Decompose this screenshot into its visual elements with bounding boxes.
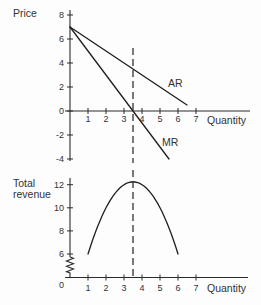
y-tick-label: 8 — [59, 10, 64, 20]
y-tick-label: 4 — [59, 58, 64, 68]
price-chart: 86420-2-41234567QuantityPriceARMR — [13, 7, 250, 164]
x-tick-label: 5 — [157, 114, 162, 124]
x-axis-label: Quantity — [207, 282, 247, 294]
x-tick-label: 7 — [193, 283, 198, 293]
x-tick-label: 2 — [103, 114, 108, 124]
origin-label: 0 — [59, 280, 64, 290]
x-tick-label: 6 — [175, 283, 180, 293]
x-tick-label: 3 — [121, 114, 126, 124]
axis-break-zigzag — [67, 257, 74, 278]
x-tick-label: 5 — [157, 283, 162, 293]
x-tick-label: 2 — [103, 283, 108, 293]
y-tick-label: 10 — [54, 203, 64, 213]
ar-curve — [70, 27, 187, 105]
series-label-mr: MR — [162, 136, 179, 148]
x-tick-label: 1 — [85, 114, 90, 124]
y-tick-label: 6 — [59, 249, 64, 259]
x-tick-label: 4 — [139, 283, 144, 293]
x-tick-label: 1 — [85, 283, 90, 293]
y-axis-label: Price — [13, 7, 37, 19]
mr-curve — [70, 27, 169, 159]
y-tick-label: 2 — [59, 82, 64, 92]
y-tick-label: 8 — [59, 226, 64, 236]
y-tick-label: -2 — [56, 130, 64, 140]
x-axis-label: Quantity — [207, 114, 247, 126]
revenue-chart: 12108601234567QuantityTotalrevenue — [13, 177, 248, 294]
y-axis-label: revenue — [13, 188, 51, 200]
x-tick-label: 3 — [121, 283, 126, 293]
y-tick-label: -4 — [56, 154, 64, 164]
x-tick-label: 7 — [193, 114, 198, 124]
y-tick-label: 6 — [59, 34, 64, 44]
y-tick-label: 12 — [54, 180, 64, 190]
y-tick-label: 0 — [59, 106, 64, 116]
series-label-ar: AR — [168, 77, 183, 89]
x-tick-label: 6 — [175, 114, 180, 124]
figure: 86420-2-41234567QuantityPriceARMR1210860… — [0, 0, 261, 305]
chart-canvas: 86420-2-41234567QuantityPriceARMR1210860… — [0, 0, 261, 305]
